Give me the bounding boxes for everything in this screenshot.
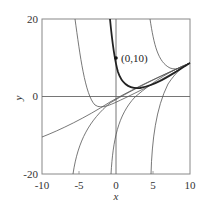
x-tick-label: -5 (74, 179, 84, 191)
curve-lower-right (151, 63, 190, 174)
x-tick-label: 10 (185, 179, 197, 191)
curve-lower-left (73, 63, 190, 174)
x-axis-label: x (113, 190, 119, 202)
curve-right-u (150, 19, 190, 69)
y-tick-label: 20 (27, 13, 39, 25)
chart: (0,10) 20 0 -20 -10 -5 0 5 10 x y (0, 0, 205, 204)
y-axis-label: y (12, 95, 24, 101)
point-marker (114, 56, 118, 60)
y-tick-label: 0 (33, 90, 39, 102)
point-annotation: (0,10) (121, 52, 148, 65)
curve-lower-middle (111, 63, 190, 174)
x-tick-label: 5 (150, 179, 156, 191)
x-tick-label: -10 (35, 179, 50, 191)
